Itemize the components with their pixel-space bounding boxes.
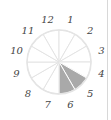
label-7: 7 <box>44 99 51 110</box>
label-8: 8 <box>25 88 31 99</box>
label-10: 10 <box>10 45 23 56</box>
label-6: 6 <box>67 99 74 110</box>
label-12: 12 <box>41 14 54 25</box>
label-4: 4 <box>97 68 104 79</box>
label-9: 9 <box>13 68 20 79</box>
label-5: 5 <box>87 88 93 99</box>
divider-line <box>107 0 108 120</box>
sector-group <box>27 30 91 94</box>
label-11: 11 <box>22 25 35 36</box>
label-2: 2 <box>86 25 93 36</box>
clock-diagram: 121234567891011 <box>0 0 111 120</box>
label-1: 1 <box>67 14 73 25</box>
label-3: 3 <box>98 45 104 56</box>
